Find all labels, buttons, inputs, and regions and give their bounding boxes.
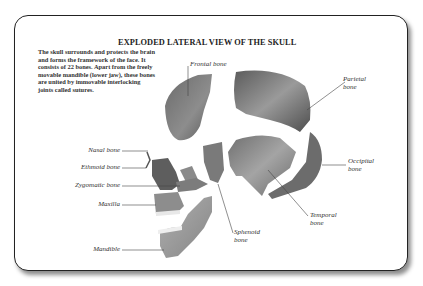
label-occipital-bone: Occipital bone (348, 158, 374, 173)
label-temporal-bone: Temporal bone (310, 212, 337, 227)
label-frontal-bone: Frontal bone (190, 61, 227, 69)
parietal-bone (234, 71, 310, 132)
label-zygomatic-bone: Zygomatic bone (40, 182, 120, 190)
label-sphenoid-bone: Sphenoid bone (234, 229, 260, 244)
frontal-bone (165, 74, 212, 140)
label-maxilla: Maxilla (40, 201, 120, 209)
nasal-bone (146, 152, 150, 168)
zygomatic-bone (176, 178, 208, 192)
label-parietal-bone: Parietal bone (343, 76, 366, 91)
label-mandible: Mandible (40, 246, 120, 254)
diagram-title: EXPLODED LATERAL VIEW OF THE SKULL (118, 38, 328, 47)
description-text: The skull surrounds and protects the bra… (38, 48, 156, 94)
label-nasal-bone: Nasal bone (40, 147, 120, 155)
sphenoid-bone (203, 142, 224, 183)
ethmoid-bone (152, 158, 180, 190)
label-ethmoid-bone: Ethmoid bone (40, 164, 120, 172)
